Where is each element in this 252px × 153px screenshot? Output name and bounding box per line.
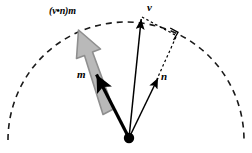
vector-n-line (129, 78, 158, 138)
vector-label-v: v (147, 2, 152, 13)
vector-v-line (129, 19, 141, 138)
projection-label: (v•n)m (49, 6, 76, 16)
dashed-arc (8, 22, 244, 140)
dotted-projection-line-top (142, 17, 177, 36)
origin-dot (124, 133, 134, 143)
vector-projection-figure: v m n (v•n)m (0, 0, 252, 153)
vector-label-n: n (161, 71, 167, 82)
vector-label-m: m (77, 69, 86, 80)
figure-canvas (0, 0, 252, 153)
